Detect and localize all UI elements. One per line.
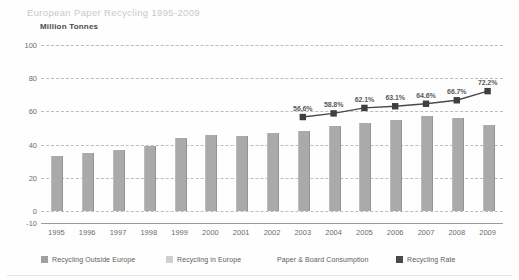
- legend-item[interactable]: Recycling Rate: [396, 256, 455, 263]
- legend-label: Recycling Outside Europe: [52, 256, 135, 263]
- gridline: [41, 211, 503, 212]
- data-point-label: 72.2%: [478, 79, 497, 86]
- legend-item[interactable]: Recycling in Europe: [166, 256, 241, 263]
- y-axis-tick-label: 0: [13, 207, 37, 216]
- legend-swatch: [396, 256, 403, 263]
- x-axis-tick-label: 2004: [325, 228, 342, 237]
- line-marker: [454, 97, 460, 103]
- x-axis-tick-label: 2002: [264, 228, 281, 237]
- x-axis-tick-label: 2003: [294, 228, 311, 237]
- y-axis-tick-label: 80: [13, 74, 37, 83]
- x-axis-tick-label: 1998: [140, 228, 157, 237]
- line-marker: [330, 110, 336, 116]
- chart-title: European Paper Recycling 1995-2009: [27, 7, 200, 18]
- data-point-label: 63.1%: [386, 94, 405, 101]
- x-axis-tick-label: 2007: [418, 228, 435, 237]
- x-axis-tick-label: 1997: [110, 228, 127, 237]
- legend-swatch: [41, 256, 48, 263]
- legend-item[interactable]: Paper & Board Consumption: [266, 256, 369, 263]
- x-axis-tick-label: 1996: [79, 228, 96, 237]
- data-point-label: 64.6%: [416, 92, 435, 99]
- legend-label: Recycling in Europe: [177, 256, 241, 263]
- legend-swatch: [166, 256, 173, 263]
- x-axis-tick-label: 2006: [387, 228, 404, 237]
- x-axis-tick-label: 2000: [202, 228, 219, 237]
- recycling-rate-line: [41, 45, 503, 211]
- data-point-label: 66.7%: [447, 88, 466, 95]
- line-marker: [423, 101, 429, 107]
- line-marker: [300, 114, 306, 120]
- x-axis-tick-label: 2005: [356, 228, 373, 237]
- data-point-label: 56.6%: [293, 105, 312, 112]
- y-axis-tick-label: 100: [13, 41, 37, 50]
- x-axis-tick-label: 1999: [171, 228, 188, 237]
- legend-label: Paper & Board Consumption: [277, 256, 369, 263]
- x-axis-tick-label: 2009: [479, 228, 496, 237]
- x-axis-tick-label: 1995: [48, 228, 65, 237]
- y-axis-tick-label: 60: [13, 107, 37, 116]
- y-axis-unit-label: Million Tonnes: [40, 22, 98, 31]
- x-axis-tick-group: 1995199619971998199920002001200220032004…: [41, 228, 503, 240]
- y-axis-tick-label: 40: [13, 141, 37, 150]
- line-marker: [484, 88, 490, 94]
- data-point-label: 62.1%: [355, 96, 374, 103]
- y-axis-tick-label: -10: [13, 219, 37, 228]
- x-axis-tick-label: 2008: [448, 228, 465, 237]
- legend-divider: [7, 275, 512, 276]
- y-axis-tick-label: 20: [13, 174, 37, 183]
- chart-card: European Paper Recycling 1995-2009 Milli…: [0, 0, 519, 280]
- x-axis-tick-label: 2001: [233, 228, 250, 237]
- data-point-label: 58.8%: [324, 101, 343, 108]
- plot-area: 56.6%58.8%62.1%63.1%64.6%66.7%72.2%: [41, 45, 503, 211]
- legend-label: Recycling Rate: [407, 256, 455, 263]
- chart-legend: Recycling Outside EuropeRecycling in Eur…: [41, 256, 511, 270]
- line-marker: [361, 105, 367, 111]
- line-marker: [392, 103, 398, 109]
- x-axis-line: [41, 223, 503, 224]
- legend-item[interactable]: Recycling Outside Europe: [41, 256, 135, 263]
